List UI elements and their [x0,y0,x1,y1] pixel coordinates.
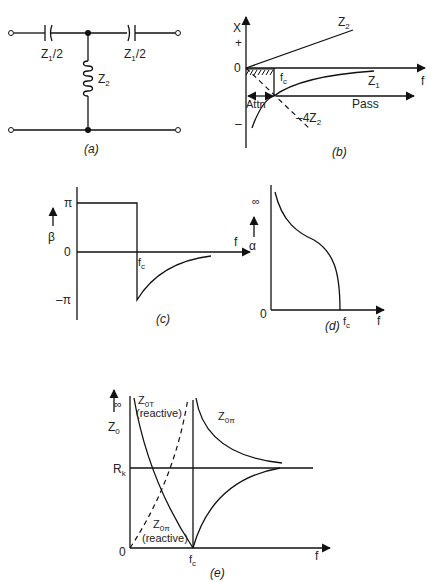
c-zero: 0 [64,245,71,259]
d-zero: 0 [260,307,267,321]
plot-e-impedance: Z0 ∞ Rk 0 f fc Z0T (reactive) Z0π Z0π (r… [108,390,330,580]
e-x-label: f [315,549,319,563]
e-z0t-reactive-note: (reactive) [136,407,182,419]
b-z1-label: Z1 [368,74,380,90]
terminal-bottom-left [9,128,14,133]
b-fc-label: fc [280,71,287,86]
figure-canvas: Z1/2 Z1/2 Z2 (a) X + 0 – f Z2 fc Z1 [0,0,435,582]
caption-b: (b) [332,145,347,159]
label-z1-half-right: Z1/2 [124,47,146,63]
d-infinity: ∞ [252,195,260,207]
b-minus: – [235,117,242,131]
e-z0pi-reactive-label: Z0π [153,518,170,533]
b-y-label: X [233,21,241,35]
terminal-bottom-right [176,128,181,133]
label-z2: Z2 [98,72,110,88]
c-neg-pi: –π [56,293,71,307]
e-z0pi-label: Z0π [218,410,235,425]
b-x-label: f [421,74,425,88]
c-pi: π [64,196,72,210]
b-zero: 0 [234,61,241,75]
e-z0t-curve [193,468,280,548]
b-z2-label: Z2 [338,15,350,31]
b-pass-label: Pass [352,97,379,111]
e-zero: 0 [119,545,126,559]
c-fc-label: fc [138,256,145,271]
b-neg4z2-label: –4Z2 [296,111,322,127]
e-z0pi-curve [196,398,282,463]
caption-c: (c) [156,312,170,326]
b-z2-line [246,30,353,68]
caption-d: (d) [325,319,340,333]
e-infinity: ∞ [114,398,122,410]
plot-d-attenuation: α ∞ 0 f fc (d) [249,185,384,333]
plot-b-reactance: X + 0 – f Z2 fc Z1 –4Z2 Attn [233,15,425,159]
plot-c-phase: β π 0 –π f fc (c) [48,187,250,326]
b-plus: + [235,36,242,50]
e-y-label: Z0 [108,420,120,436]
d-alpha-curve [275,192,340,310]
b-attn-label: Attn [246,98,266,110]
caption-a: (a) [84,142,99,156]
label-z1-half-left: Z1/2 [41,47,63,63]
c-x-label: f [234,235,238,249]
d-y-label: α [249,239,256,253]
caption-e: (e) [210,566,225,580]
d-x-label: f [377,314,381,328]
d-fc-label: fc [343,315,350,330]
b-hatch [246,69,274,75]
circuit-t-section: Z1/2 Z1/2 Z2 (a) [9,25,181,156]
capacitor-right-curved-plate [128,25,130,41]
e-z0pi-reactive-note: (reactive) [142,532,188,544]
c-y-label: β [48,230,55,244]
terminal-top-left [9,31,14,36]
e-fc-label: fc [189,553,196,568]
e-rk-label: Rk [113,462,127,478]
inductor-coil [84,61,93,96]
terminal-top-right [176,31,181,36]
